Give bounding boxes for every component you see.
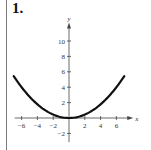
x-tick-label: 2: [83, 122, 87, 130]
y-axis-label: y: [67, 15, 72, 23]
x-axis-label: x: [134, 115, 139, 123]
y-tick-label: 2: [62, 99, 66, 107]
x-tick-label: −4: [34, 122, 42, 130]
y-tick-label: 10: [58, 38, 66, 46]
x-tick-label: −6: [18, 122, 26, 130]
x-tick-label: 6: [115, 122, 119, 130]
y-axis-arrow-icon: [67, 23, 71, 29]
parabola-chart: xy−6−4−2246−2246810: [0, 0, 151, 150]
y-tick-label: 6: [62, 68, 66, 76]
y-tick-label: 8: [62, 53, 66, 61]
x-axis-arrow-icon: [127, 116, 133, 120]
tick-labels: xy−6−4−2246−2246810: [18, 15, 139, 138]
y-tick-label: −2: [58, 130, 66, 138]
y-tick-label: 4: [62, 84, 66, 92]
x-tick-label: 4: [99, 122, 103, 130]
x-tick-label: −2: [49, 122, 57, 130]
